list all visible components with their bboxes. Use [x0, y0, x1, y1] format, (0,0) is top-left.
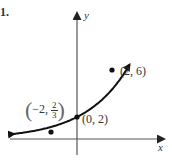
exponential-graph [0, 0, 172, 167]
point-0 [74, 114, 79, 119]
label-point-0-2: (0, 2) [82, 112, 108, 127]
label-point-2-6: (2, 6) [120, 64, 146, 79]
point-neg2 [48, 129, 53, 134]
label-neg2-whole: −2, [32, 102, 48, 116]
label-point-neg2: (−2, 23) [25, 97, 65, 123]
x-axis-label: x [158, 141, 163, 153]
y-axis-label: y [84, 9, 89, 21]
point-2 [109, 67, 114, 72]
paren-close: ) [58, 97, 65, 122]
